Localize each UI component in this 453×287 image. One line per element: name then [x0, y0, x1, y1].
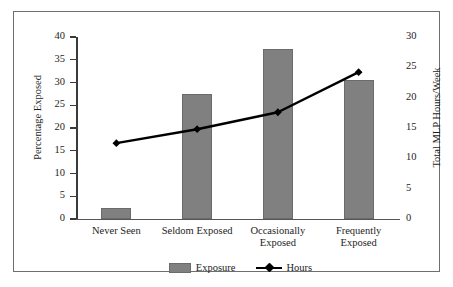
left-axis-tick-label: 5 [41, 190, 65, 200]
figure-border: 0510152025303540 051015202530 Never Seen… [13, 11, 440, 272]
left-axis-tick-label: 40 [41, 31, 65, 41]
left-axis-tick-label: 35 [41, 54, 65, 64]
hours-line-path [116, 72, 358, 143]
right-axis-tick-label: 0 [406, 213, 430, 223]
legend-line-marker-icon [256, 264, 282, 272]
right-axis-title: Total MLP Hours/Week [431, 48, 442, 188]
right-axis-tick-label: 10 [406, 152, 430, 162]
legend-item-exposure: Exposure [169, 262, 236, 273]
hours-data-point-marker [355, 68, 363, 76]
chart-figure: 0510152025303540 051015202530 Never Seen… [0, 0, 453, 287]
left-axis-tick-label: 15 [41, 145, 65, 155]
hours-data-point-marker [274, 108, 282, 116]
legend-label-hours: Hours [287, 262, 313, 273]
left-axis-tick-label: 10 [41, 168, 65, 178]
left-axis-tick-label: 30 [41, 77, 65, 87]
legend-label-exposure: Exposure [196, 262, 236, 273]
right-axis-tick-label: 20 [406, 92, 430, 102]
category-label: Occasionally Exposed [238, 225, 319, 248]
left-axis-tick-label: 20 [41, 122, 65, 132]
legend-item-hours: Hours [256, 262, 313, 273]
right-axis-tick-label: 25 [406, 61, 430, 71]
left-axis-tick-label: 25 [41, 99, 65, 109]
left-axis-title: Percentage Exposed [32, 58, 43, 178]
category-label: Frequently Exposed [318, 225, 399, 248]
legend-swatch-icon [169, 263, 191, 273]
line-series-hours [76, 37, 399, 220]
category-label: Never Seen [76, 225, 157, 237]
hours-data-point-marker [112, 139, 120, 147]
right-axis-tick-label: 5 [406, 183, 430, 193]
hours-data-point-marker [193, 125, 201, 133]
right-axis-tick-label: 30 [406, 31, 430, 41]
left-axis-tick-label: 0 [41, 213, 65, 223]
chart-legend: Exposure Hours [14, 262, 453, 273]
right-axis-tick-label: 15 [406, 122, 430, 132]
category-label: Seldom Exposed [157, 225, 238, 237]
